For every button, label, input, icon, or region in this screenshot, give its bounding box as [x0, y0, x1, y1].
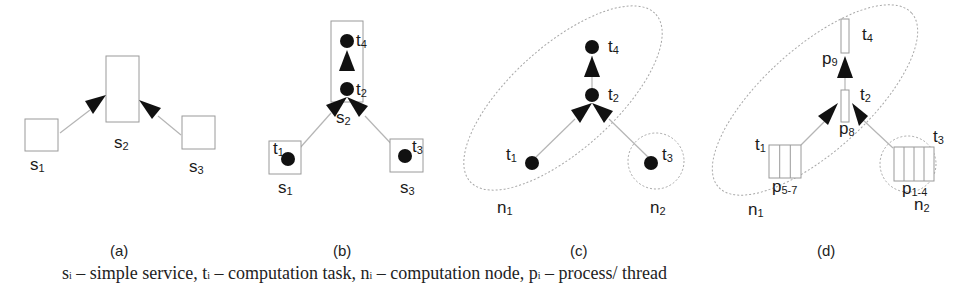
- legend-item-node: ni – computation node,: [361, 263, 529, 283]
- legend-item-service: si – simple service,: [62, 263, 202, 283]
- arrowhead-icon: [818, 103, 838, 125]
- label-t4: t4: [862, 25, 873, 44]
- task-t2-dot: [340, 82, 354, 96]
- panel-b: t4 t2 t1 t3 s2 s1 s3 (b): [269, 21, 423, 259]
- process-pool-p5-7: [769, 145, 801, 178]
- label-t3: t3: [933, 127, 944, 146]
- label-t2: t2: [608, 85, 619, 104]
- label-t2: t2: [860, 85, 871, 104]
- process-p9-box: [841, 19, 849, 53]
- task-t4-dot: [585, 40, 599, 54]
- edge-t3-t2: [609, 119, 648, 157]
- label-t4: t4: [608, 37, 619, 56]
- legend-item-task: ti – computation task,: [202, 263, 360, 283]
- caption-b: (b): [333, 242, 351, 259]
- service-s1-box: [25, 119, 58, 151]
- panel-a: s1 s2 s3 (a): [25, 56, 215, 259]
- label-t3: t3: [662, 145, 673, 164]
- task-t2-dot: [585, 88, 599, 102]
- label-p9: p9: [822, 49, 838, 68]
- panel-d: t4 p9 t2 p8 t1 p5-7 t3 p1-4 n2 n1 (d): [684, 0, 947, 259]
- legend-item-process: pi – process/ thread: [529, 263, 667, 283]
- arrowhead-icon: [584, 56, 600, 77]
- caption-d: (d): [817, 242, 835, 259]
- label-n2: n2: [650, 198, 666, 217]
- service-s3-box: [182, 116, 215, 149]
- label-n1: n1: [748, 200, 764, 219]
- label-s3: s3: [400, 178, 415, 197]
- arrowhead-icon: [139, 100, 161, 119]
- panel-c: t4 t2 t1 t3 n1 n2 (c): [435, 0, 690, 259]
- task-t1-dot: [525, 156, 539, 170]
- arrowhead-icon: [837, 56, 853, 78]
- edge-t3-t2: [862, 119, 893, 148]
- label-s2: s2: [336, 108, 351, 127]
- task-t4-dot: [340, 34, 354, 48]
- edge-t1-t2: [801, 119, 827, 145]
- edge-s3-s2: [158, 116, 181, 135]
- label-t1: t1: [755, 135, 766, 154]
- label-s1: s1: [278, 178, 293, 197]
- task-t3-dot: [644, 156, 658, 170]
- task-t3-dot: [398, 149, 412, 163]
- edge-s1-s2: [60, 110, 90, 133]
- label-n1: n1: [497, 198, 513, 217]
- service-decomposition-diagram: s1 s2 s3 (a) t4 t2 t1 t3 s2 s1 s3 (b): [0, 0, 972, 288]
- label-s3: s3: [189, 157, 204, 176]
- node-n1-boundary: [435, 0, 690, 220]
- process-p8-box: [841, 90, 849, 122]
- label-s2: s2: [114, 133, 129, 152]
- label-p5-7: p5-7: [772, 177, 797, 196]
- caption-a: (a): [110, 242, 128, 259]
- legend: si – simple service, ti – computation ta…: [0, 263, 972, 284]
- edge-t1-t2: [299, 113, 331, 149]
- edge-t1-t2: [535, 119, 575, 158]
- caption-c: (c): [570, 242, 588, 259]
- label-p8: p8: [839, 119, 855, 138]
- label-t1: t1: [506, 145, 517, 164]
- label-s1: s1: [30, 155, 45, 174]
- process-pool-p1-4: [894, 147, 934, 181]
- service-s2-box: [106, 56, 139, 122]
